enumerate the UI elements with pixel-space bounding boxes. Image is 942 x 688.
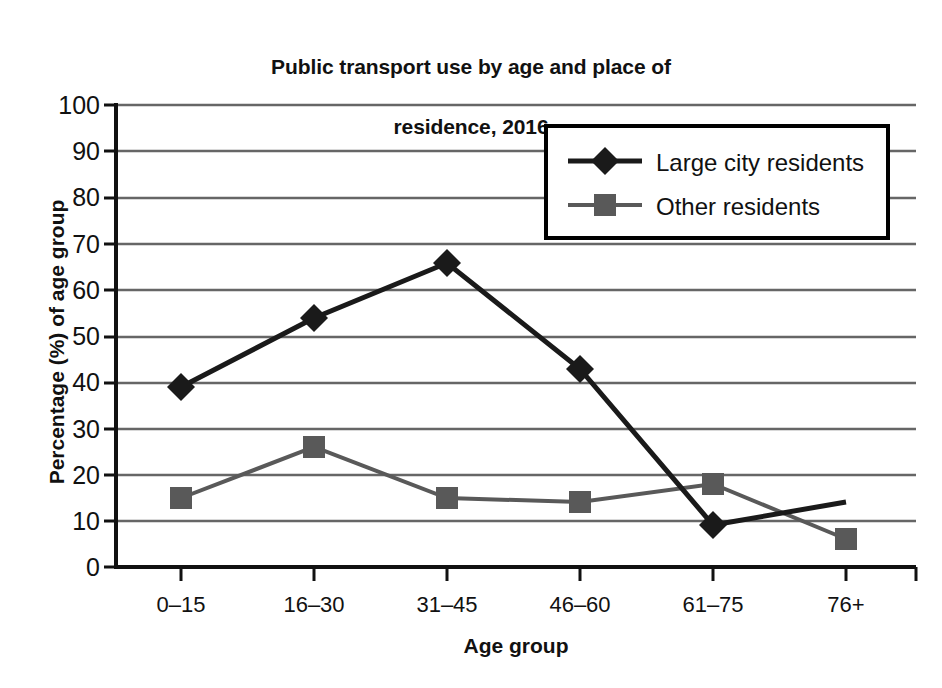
marker-large-city-16-30: [300, 304, 328, 332]
marker-other-76plus: [835, 528, 857, 550]
legend-square-icon: [594, 194, 616, 216]
marker-other-16-30: [303, 436, 325, 458]
marker-other-46-60: [569, 491, 591, 513]
legend-label-large-city: Large city residents: [656, 149, 864, 176]
plot-area: Large city residents Other residents: [0, 0, 942, 688]
marker-other-61-75: [702, 473, 724, 495]
chart-figure: Public transport use by age and place of…: [0, 0, 942, 688]
legend-box: [546, 126, 888, 238]
series-large-city-residents-line: [181, 263, 846, 525]
marker-other-0-15: [170, 487, 192, 509]
legend-label-other: Other residents: [656, 193, 820, 220]
marker-large-city-0-15: [167, 373, 195, 401]
chart-legend[interactable]: Large city residents Other residents: [546, 126, 888, 238]
marker-other-31-45: [436, 487, 458, 509]
series-other-residents: [170, 436, 857, 550]
series-other-residents-line: [181, 447, 846, 539]
